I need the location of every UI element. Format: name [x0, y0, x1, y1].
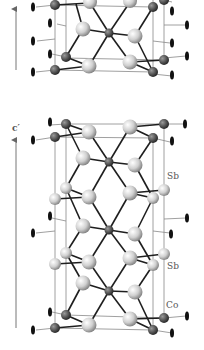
side-marker: [185, 214, 189, 223]
co-atom: [148, 133, 158, 143]
co-atom: [50, 323, 60, 333]
co-atom: [61, 52, 71, 62]
side-marker: [48, 19, 52, 28]
sb-atom: [49, 258, 61, 270]
co-atom: [148, 325, 158, 335]
side-marker: [183, 120, 187, 129]
sb-atom: [82, 125, 97, 140]
co-atom: [105, 287, 114, 296]
co-atom: [50, 132, 60, 142]
sb-atom: [83, 0, 97, 9]
sb-atom: [158, 248, 170, 260]
co-atom: [61, 119, 71, 129]
co-atom: [148, 67, 158, 77]
sb-atom: [123, 120, 138, 135]
sb-atom: [128, 227, 143, 242]
sb-atom: [158, 184, 170, 196]
co-atom: [105, 158, 114, 167]
co-atom: [159, 313, 169, 323]
side-marker: [185, 21, 189, 30]
bottom-unit-cell: [16, 118, 189, 338]
sb-atom: [82, 59, 97, 74]
side-marker: [48, 308, 52, 317]
sb-label-upper: Sb: [167, 172, 179, 181]
sb-atom: [76, 219, 91, 234]
sb-atom: [82, 318, 97, 333]
side-marker: [31, 37, 35, 46]
sb-atom: [147, 192, 159, 204]
co-atom: [148, 2, 158, 12]
side-marker: [48, 118, 52, 127]
side-marker: [31, 68, 35, 77]
sb-atom: [76, 276, 91, 291]
co-atom: [105, 29, 114, 38]
co-label: Co: [166, 301, 178, 310]
co-atom: [105, 226, 114, 235]
co-atom: [159, 119, 169, 129]
co-atom: [50, 0, 60, 10]
sb-atom: [147, 259, 159, 271]
sb-atom: [76, 151, 91, 166]
co-atom: [50, 65, 60, 75]
side-marker: [170, 329, 174, 338]
sb-label-lower: Sb: [167, 262, 179, 271]
side-marker: [48, 50, 52, 59]
side-marker: [185, 52, 189, 61]
side-marker: [170, 137, 174, 146]
sb-atom: [49, 193, 61, 205]
side-marker: [48, 212, 52, 221]
co-atom: [159, 55, 169, 65]
sb-atom: [128, 285, 143, 300]
side-marker: [31, 229, 35, 238]
side-marker: [170, 7, 174, 16]
sb-atom: [82, 255, 97, 270]
side-marker: [31, 136, 35, 145]
co-atom: [159, 0, 169, 5]
sb-atom: [123, 312, 138, 327]
sb-atom: [123, 186, 138, 201]
c-prime-axis-label: c′: [12, 124, 20, 133]
sb-atom: [128, 158, 143, 173]
co-atom: [61, 310, 71, 320]
sb-atom: [123, 251, 138, 266]
crystal-structure-figure: c′ Sb Sb Co: [0, 0, 204, 350]
side-marker: [31, 326, 35, 335]
sb-atom: [128, 29, 143, 44]
top-unit-cell: [16, 0, 189, 80]
side-marker: [170, 71, 174, 80]
side-marker: [169, 230, 173, 239]
side-marker: [185, 312, 189, 321]
sb-atom: [123, 55, 138, 70]
side-marker: [31, 3, 35, 12]
sb-atom: [60, 182, 72, 194]
side-marker: [170, 39, 174, 48]
sb-atom: [76, 22, 91, 37]
sb-atom: [60, 247, 72, 259]
sb-atom: [82, 190, 97, 205]
